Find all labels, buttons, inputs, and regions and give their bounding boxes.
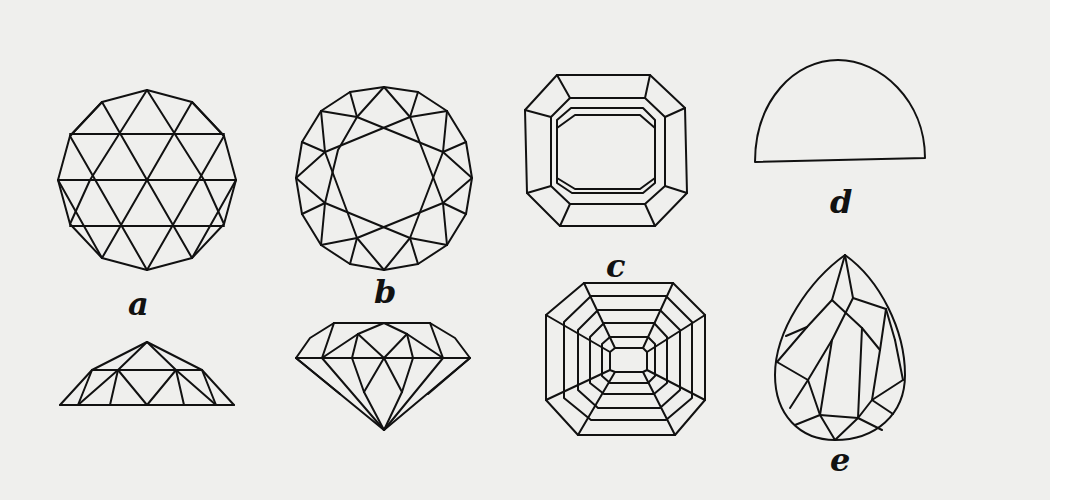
label-e: e [830,444,850,476]
label-c: c [606,250,625,282]
label-b: b [374,276,396,308]
gem-c-top-view [525,75,687,226]
gem-b-top-view [296,87,472,270]
gem-e-top-view [775,255,905,440]
label-d: d [830,186,852,218]
label-a: a [128,288,149,320]
gem-b-side-view [296,323,470,430]
gem-a-side-view [60,342,234,405]
gem-d-side-view [755,60,925,162]
gem-cuts-figure [0,0,1050,500]
gem-c-bottom-view [546,283,705,435]
gem-a-top-view [58,90,236,270]
figure-page: a b c d e [0,0,1050,500]
